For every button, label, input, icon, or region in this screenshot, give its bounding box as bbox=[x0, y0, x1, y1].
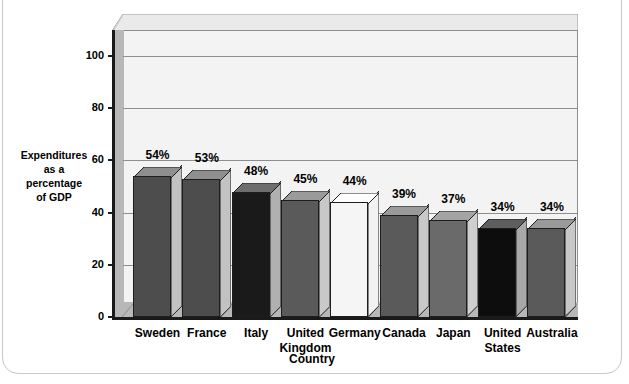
bar-front-face bbox=[527, 228, 565, 317]
bar-front-face bbox=[182, 179, 220, 317]
x-axis-title: Country bbox=[252, 352, 372, 366]
bar-side-face bbox=[565, 217, 576, 317]
bar[interactable] bbox=[330, 191, 368, 317]
bar-data-label: 48% bbox=[230, 164, 282, 178]
bar-data-label: 45% bbox=[279, 172, 331, 186]
x-axis-category-label-line: Australia bbox=[514, 326, 590, 341]
bar-data-label: 53% bbox=[181, 151, 233, 165]
gridline bbox=[123, 56, 578, 57]
bar-front-face bbox=[429, 220, 467, 317]
bar-side-face bbox=[171, 165, 182, 317]
bar-side-face bbox=[220, 168, 231, 317]
chart-plot-area bbox=[112, 14, 578, 319]
bar-side-face bbox=[270, 181, 281, 317]
y-axis-tick-mark bbox=[108, 316, 113, 318]
bar[interactable] bbox=[182, 168, 220, 317]
y-axis-tick-label: 100 bbox=[70, 49, 104, 61]
bar[interactable] bbox=[527, 217, 565, 317]
y-axis-tick-label: 40 bbox=[70, 206, 104, 218]
y-axis-title-line-4: of GDP bbox=[6, 190, 102, 204]
y-axis-tick-mark bbox=[108, 212, 113, 214]
bar-front-face bbox=[281, 200, 319, 317]
bar[interactable] bbox=[429, 209, 467, 317]
bar[interactable] bbox=[232, 181, 270, 317]
bar-front-face bbox=[133, 176, 171, 317]
gridline bbox=[123, 108, 578, 109]
bar-data-label: 34% bbox=[526, 200, 578, 214]
x-axis-line bbox=[112, 317, 578, 320]
bar-front-face bbox=[232, 192, 270, 317]
y-axis-tick-mark bbox=[108, 55, 113, 57]
bar-side-face bbox=[467, 209, 478, 317]
y-axis-tick-label: 80 bbox=[70, 101, 104, 113]
bar-front-face bbox=[478, 228, 516, 317]
bar-data-label: 44% bbox=[329, 174, 381, 188]
bar-side-face bbox=[418, 204, 429, 317]
bar-data-label: 37% bbox=[427, 192, 479, 206]
y-axis-tick-label: 60 bbox=[70, 153, 104, 165]
bar[interactable] bbox=[478, 217, 516, 317]
x-axis-category-label-line: States bbox=[465, 341, 541, 356]
bar[interactable] bbox=[281, 189, 319, 317]
bar-front-face bbox=[380, 215, 418, 317]
bar[interactable] bbox=[380, 204, 418, 317]
y-axis-title-line-3: percentage bbox=[6, 176, 102, 190]
bar-side-face bbox=[516, 217, 527, 317]
bar-data-label: 34% bbox=[477, 200, 529, 214]
chart-page: Expenditures as a percentage of GDP 0204… bbox=[0, 0, 629, 384]
y-axis-tick-mark bbox=[108, 264, 113, 266]
y-axis-tick-label: 20 bbox=[70, 258, 104, 270]
y-axis-tick-label: 0 bbox=[70, 310, 104, 322]
bar-side-face bbox=[368, 191, 379, 317]
bar-side-face bbox=[319, 189, 330, 317]
y-axis-line bbox=[112, 30, 115, 320]
bar-front-face bbox=[330, 202, 368, 317]
y-axis-tick-mark bbox=[108, 107, 113, 109]
bar-data-label: 39% bbox=[378, 187, 430, 201]
bar-data-label: 54% bbox=[132, 148, 184, 162]
x-axis-category-label: Australia bbox=[514, 326, 590, 341]
bar[interactable] bbox=[133, 165, 171, 317]
y-axis-tick-mark bbox=[108, 159, 113, 161]
